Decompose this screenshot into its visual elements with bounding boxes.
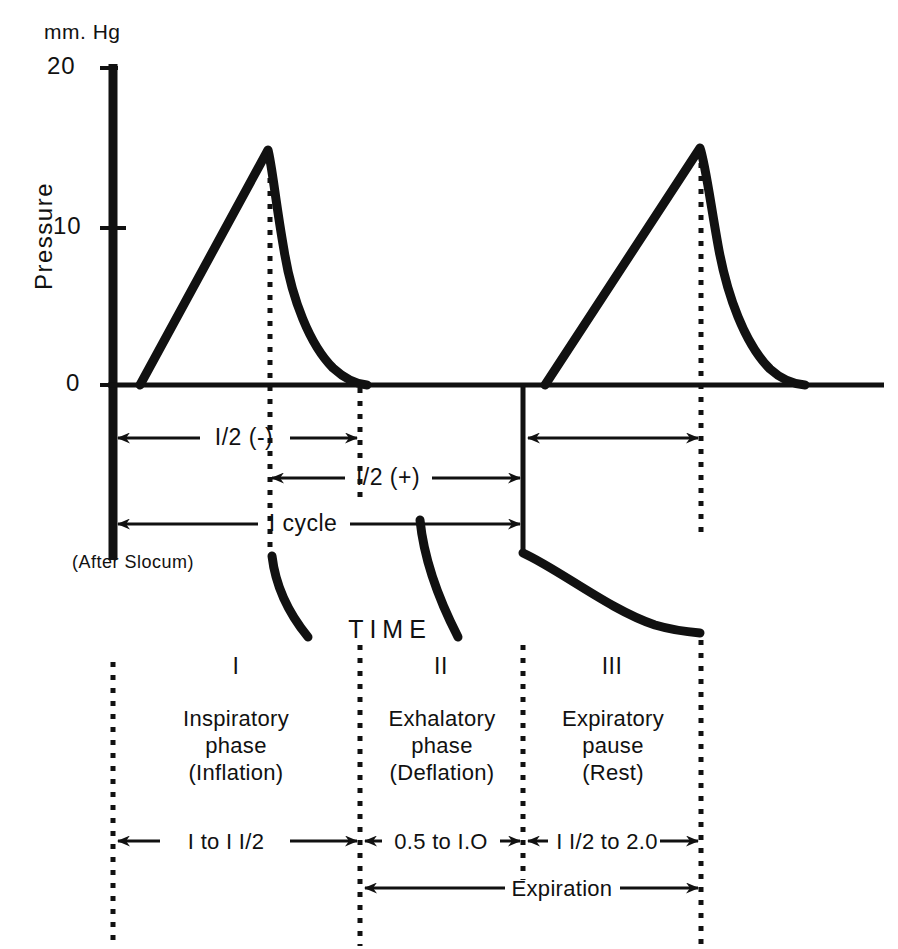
y-axis-unit-label: mm. Hg: [44, 20, 121, 44]
phase-name-1-line1: Inspiratory: [136, 705, 336, 732]
phase-numeral-1: I: [233, 653, 240, 680]
time-axis-header: TIME: [348, 615, 432, 644]
phase-duration-2: 0.5 to I.O: [394, 829, 488, 855]
waveform-cycle-2: [545, 148, 805, 385]
waveform-cycle-1: [140, 150, 367, 385]
y-tick-label-20: 20: [47, 52, 76, 80]
phase-numeral-3: III: [602, 653, 623, 680]
annotation-expiration: Expiration: [512, 876, 613, 902]
phase-duration-1: I to I I/2: [188, 829, 264, 855]
phase-name-1-line2: phase: [136, 732, 336, 759]
connector-boundary-to-divider: [523, 553, 700, 633]
annotation-one-cycle: I cycle: [269, 510, 338, 537]
phase-name-1-line3: (Inflation): [136, 759, 336, 786]
connector-peak1-to-divider: [272, 556, 308, 637]
phase-name-2-line3: (Deflation): [364, 759, 520, 786]
phase-name-3: Expiratory pause (Rest): [530, 705, 696, 786]
annotation-half-positive: I/2 (+): [356, 464, 420, 491]
source-note: (After Slocum): [72, 552, 194, 573]
phase-name-1: Inspiratory phase (Inflation): [136, 705, 336, 786]
phase-name-2-line2: phase: [364, 732, 520, 759]
respiratory-pressure-figure: mm. Hg 20 10 0 Pressure I/2 (-) I/2 (+) …: [0, 0, 898, 949]
y-axis-title: Pressure: [30, 182, 58, 290]
figure-canvas: [0, 0, 898, 949]
phase-name-2-line1: Exhalatory: [364, 705, 520, 732]
phase-name-2: Exhalatory phase (Deflation): [364, 705, 520, 786]
phase-duration-3: I I/2 to 2.0: [556, 829, 657, 855]
phase-name-3-line2: pause: [530, 732, 696, 759]
phase-name-3-line3: (Rest): [530, 759, 696, 786]
phase-numeral-2: II: [434, 653, 448, 680]
phase-name-3-line1: Expiratory: [530, 705, 696, 732]
y-tick-label-0: 0: [66, 369, 80, 397]
annotation-half-negative: I/2 (-): [215, 424, 273, 451]
